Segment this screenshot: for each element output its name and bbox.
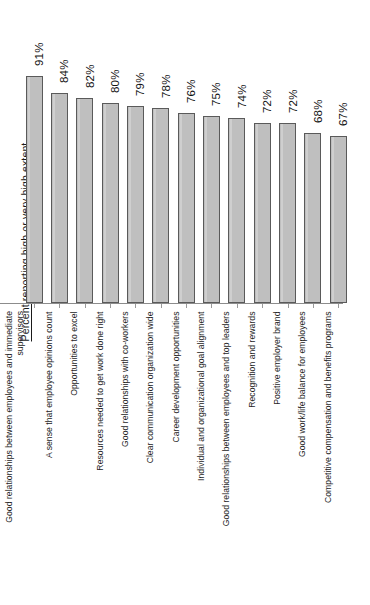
category-label: Resources needed to get work done right — [95, 311, 106, 603]
bar-highlight — [78, 99, 80, 302]
bar-highlight — [332, 137, 334, 303]
x-axis-tick — [135, 304, 136, 308]
bar-slot: 82% — [73, 28, 98, 303]
category-label: Recognition and rewards — [247, 311, 258, 603]
category-label: Clear communication organization wide — [146, 311, 157, 603]
x-axis-tick — [338, 304, 339, 308]
category-label: A sense that employee opinions count — [44, 311, 55, 603]
bar-value-label: 91% — [33, 42, 45, 66]
bar — [203, 116, 220, 304]
bar-highlight — [129, 107, 131, 303]
bar-value-label: 72% — [261, 89, 273, 113]
bar-value-label: 72% — [287, 89, 299, 113]
bar — [330, 136, 347, 304]
bar — [228, 118, 245, 303]
x-axis-tick — [288, 304, 289, 308]
bar-value-label: 84% — [58, 59, 70, 83]
bar-slot: 80% — [98, 28, 123, 303]
bar-highlight — [230, 119, 232, 302]
bar-highlight — [256, 124, 258, 302]
bar-slot: 84% — [47, 28, 72, 303]
bar — [152, 108, 169, 303]
bar-slot: 79% — [123, 28, 148, 303]
category-label: Good relationships between employees and… — [3, 311, 24, 603]
bar — [76, 98, 93, 303]
x-axis-tick — [34, 304, 35, 308]
x-axis-tick — [186, 304, 187, 308]
bar-value-label: 67% — [337, 102, 349, 126]
bar — [127, 106, 144, 304]
bar-value-label: 79% — [134, 72, 146, 96]
bar-slot: 75% — [199, 28, 224, 303]
bar — [51, 93, 68, 303]
category-label: Good relationships between employees and… — [222, 311, 233, 603]
bar — [102, 103, 119, 303]
bar-slot: 74% — [225, 28, 250, 303]
bar — [254, 123, 271, 303]
bar-slot: 68% — [301, 28, 326, 303]
bar-highlight — [281, 124, 283, 302]
category-labels-container: Good relationships between employees and… — [22, 308, 365, 603]
bar-chart: Percent reporting high or very high exte… — [0, 0, 370, 605]
bar-value-label: 76% — [185, 79, 197, 103]
bar-slot: 67% — [326, 28, 351, 303]
category-label-slot: Competitive compensation and benefits pr… — [326, 308, 351, 603]
bar — [26, 76, 43, 304]
x-axis-tick — [211, 304, 212, 308]
category-label: Individual and organizational goal align… — [196, 311, 207, 603]
x-axis-tick — [161, 304, 162, 308]
category-label: Good work/life balance for employees — [298, 311, 309, 603]
bar-highlight — [205, 117, 207, 303]
x-axis-baseline — [0, 303, 343, 304]
bar-value-label: 80% — [109, 69, 121, 93]
category-label: Positive employer brand — [272, 311, 283, 603]
bar-highlight — [306, 134, 308, 302]
bar-highlight — [53, 94, 55, 302]
bar-highlight — [180, 114, 182, 302]
category-label: Competitive compensation and benefits pr… — [323, 311, 334, 603]
category-label: Good relationships with co-workers — [120, 311, 131, 603]
x-axis-tick — [85, 304, 86, 308]
bar — [178, 113, 195, 303]
bar-highlight — [104, 104, 106, 302]
x-axis-tick — [313, 304, 314, 308]
bar-highlight — [154, 109, 156, 302]
bar — [304, 133, 321, 303]
x-axis-tick — [237, 304, 238, 308]
bar — [279, 123, 296, 303]
bar-slot: 72% — [250, 28, 275, 303]
bar-slot: 72% — [276, 28, 301, 303]
bar-value-label: 68% — [312, 99, 324, 123]
bar-slot: 78% — [149, 28, 174, 303]
category-label: Opportunities to excel — [70, 311, 81, 603]
x-axis-tick — [110, 304, 111, 308]
bar-value-label: 82% — [84, 64, 96, 88]
bar-slot: 91% — [22, 28, 47, 303]
bar-highlight — [28, 77, 30, 303]
category-label-slot: Clear communication organization wide — [149, 308, 174, 603]
bar-value-label: 75% — [210, 82, 222, 106]
x-axis-tick — [59, 304, 60, 308]
x-axis-tick — [262, 304, 263, 308]
bar-value-label: 78% — [160, 74, 172, 98]
category-label-slot: Opportunities to excel — [73, 308, 98, 603]
bar-value-label: 74% — [236, 84, 248, 108]
bars-container: 91%84%82%80%79%78%76%75%74%72%72%68%67% — [22, 28, 365, 303]
category-label: Career development opportunities — [171, 311, 182, 603]
bar-slot: 76% — [174, 28, 199, 303]
